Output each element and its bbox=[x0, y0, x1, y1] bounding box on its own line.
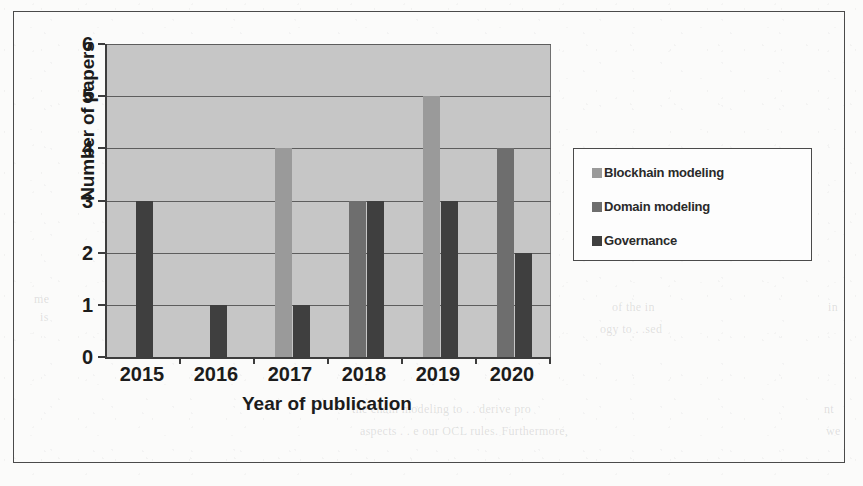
x-axis-tick-label: 2018 bbox=[327, 363, 401, 386]
y-axis-tick-label: 1 bbox=[67, 293, 93, 316]
y-axis-tick-mark bbox=[98, 43, 105, 45]
bar bbox=[515, 253, 532, 357]
legend-label: Blockhain modeling bbox=[604, 165, 724, 180]
y-axis-tick-label: 6 bbox=[67, 33, 93, 56]
bar bbox=[497, 148, 514, 357]
gridline bbox=[107, 148, 551, 149]
bar-chart: Number of papers 0123456 201520162017201… bbox=[0, 0, 863, 486]
gridline bbox=[107, 44, 551, 45]
chart-legend: Blockhain modelingDomain modelingGoverna… bbox=[573, 148, 812, 261]
gridline bbox=[107, 305, 551, 306]
legend-swatch-icon bbox=[592, 202, 602, 212]
y-axis-tick-label: 5 bbox=[67, 85, 93, 108]
x-axis-tick-mark bbox=[549, 357, 551, 364]
gridline bbox=[107, 253, 551, 254]
y-axis-tick-label: 0 bbox=[67, 346, 93, 369]
y-axis-tick-label: 4 bbox=[67, 137, 93, 160]
y-axis-tick-label: 3 bbox=[67, 189, 93, 212]
y-axis-tick-mark bbox=[98, 356, 105, 358]
legend-swatch-icon bbox=[592, 168, 602, 178]
legend-item: Domain modeling bbox=[592, 199, 710, 214]
bar bbox=[367, 201, 384, 358]
bar bbox=[423, 96, 440, 357]
y-axis-tick-mark bbox=[98, 95, 105, 97]
x-axis-tick-label: 2016 bbox=[179, 363, 253, 386]
x-axis-tick-label: 2020 bbox=[475, 363, 549, 386]
legend-item: Governance bbox=[592, 233, 677, 248]
y-axis-title: Number of papers bbox=[77, 31, 99, 211]
legend-item: Blockhain modeling bbox=[592, 165, 724, 180]
bar bbox=[349, 201, 366, 358]
legend-swatch-icon bbox=[592, 236, 602, 246]
bar bbox=[293, 305, 310, 357]
legend-label: Domain modeling bbox=[604, 199, 710, 214]
x-axis-tick-labels: 201520162017201820192020 bbox=[105, 363, 549, 391]
legend-label: Governance bbox=[604, 233, 677, 248]
y-axis-tick-mark bbox=[98, 200, 105, 202]
bar bbox=[275, 148, 292, 357]
y-axis-tick-mark bbox=[98, 304, 105, 306]
x-axis-tick-label: 2019 bbox=[401, 363, 475, 386]
y-axis-tick-mark bbox=[98, 147, 105, 149]
y-axis-tick-label: 2 bbox=[67, 241, 93, 264]
x-axis-title: Year of publication bbox=[105, 393, 549, 415]
bar bbox=[210, 305, 227, 357]
y-axis-tick-mark bbox=[98, 252, 105, 254]
bar bbox=[136, 201, 153, 358]
x-axis-tick-label: 2015 bbox=[105, 363, 179, 386]
gridline bbox=[107, 96, 551, 97]
bar bbox=[441, 201, 458, 358]
gridline bbox=[107, 201, 551, 202]
plot-area bbox=[105, 44, 551, 359]
x-axis-tick-label: 2017 bbox=[253, 363, 327, 386]
